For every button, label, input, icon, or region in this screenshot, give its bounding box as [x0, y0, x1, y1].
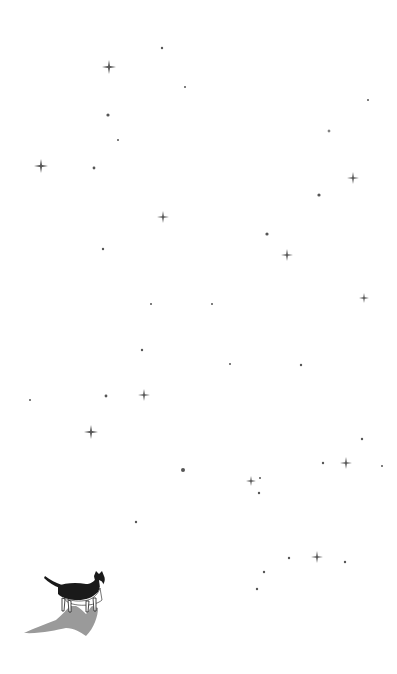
dot-star-icon — [229, 363, 231, 365]
dot-star-icon — [161, 47, 163, 49]
dot-star-icon — [344, 561, 346, 563]
dot-star-icon — [150, 303, 152, 305]
sparkle-star-icon — [102, 60, 116, 74]
sparkle-star-icon — [359, 293, 369, 303]
sparkle-star-icon — [157, 211, 169, 223]
sparkle-star-icon — [138, 389, 150, 401]
dot-star-icon — [258, 492, 260, 494]
dot-star-icon — [184, 86, 186, 88]
dot-star-icon — [181, 468, 185, 472]
dot-star-icon — [317, 193, 320, 196]
dot-star-icon — [141, 349, 143, 351]
sparkle-star-icon — [311, 551, 323, 563]
dot-star-icon — [263, 571, 265, 573]
dot-star-icon — [117, 139, 119, 141]
sparkle-star-icon — [327, 129, 331, 133]
dot-star-icon — [367, 99, 369, 101]
sparkle-star-icon — [347, 172, 359, 184]
sky-canvas — [0, 0, 397, 674]
sparkle-star-icon — [34, 159, 48, 173]
dot-star-icon — [105, 395, 108, 398]
dot-star-icon — [322, 462, 324, 464]
dot-star-icon — [265, 232, 268, 235]
night-sky-illustration — [0, 0, 397, 674]
dot-star-icon — [300, 364, 302, 366]
cat-figure — [44, 571, 105, 612]
stars-group — [29, 47, 383, 590]
dot-star-icon — [259, 477, 261, 479]
dot-star-icon — [288, 557, 290, 559]
sparkle-star-icon — [246, 476, 256, 486]
dot-star-icon — [211, 303, 213, 305]
dot-star-icon — [102, 248, 104, 250]
dot-star-icon — [256, 588, 258, 590]
dot-star-icon — [135, 521, 137, 523]
dot-star-icon — [106, 113, 109, 116]
crescent-moon-icon — [255, 73, 289, 109]
sparkle-star-icon — [340, 457, 352, 469]
dot-star-icon — [29, 399, 31, 401]
dot-star-icon — [381, 465, 383, 467]
sparkle-star-icon — [281, 249, 293, 261]
dot-star-icon — [93, 167, 96, 170]
sparkle-star-icon — [84, 425, 98, 439]
dot-star-icon — [361, 438, 363, 440]
